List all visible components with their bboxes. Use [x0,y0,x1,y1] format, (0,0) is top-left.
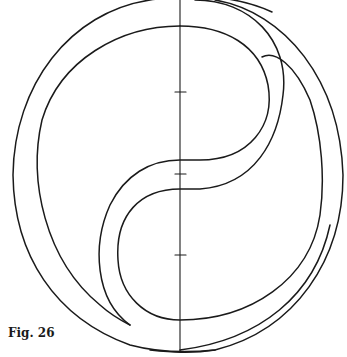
outer-circle-left-arc [13,0,272,351]
yin-yang-figure [0,0,347,357]
yin-yang-diagram [0,0,347,357]
figure-caption: Fig. 26 [8,326,55,340]
right-inner-arc [180,225,330,350]
right-band-curve [118,0,323,320]
outer-circle-right-arc [150,0,343,352]
inner-circle-left-arc [37,26,180,325]
upper-s-curve [99,26,269,325]
